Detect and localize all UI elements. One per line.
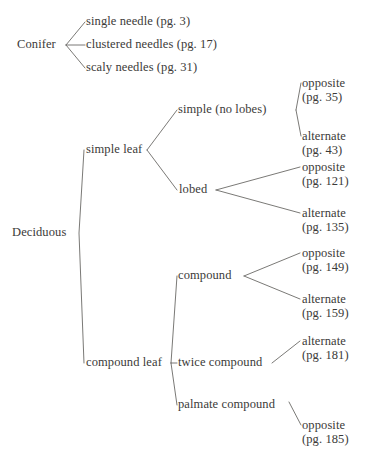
line-compound-leaf-to-palmate-compound (171, 363, 177, 405)
tree-identification-diagram: Conifer single needle (pg. 3) clustered … (0, 0, 367, 458)
node-simple-leaf[interactable]: simple leaf (86, 143, 142, 157)
leaf-simple-alternate-label: alternate (302, 129, 346, 143)
node-deciduous[interactable]: Deciduous (12, 226, 66, 240)
leaf-twice-alternate-page: (pg. 181) (302, 348, 349, 362)
line-conifer-to-scaly-needles (66, 45, 85, 68)
node-twice-compound[interactable]: twice compound (178, 356, 262, 370)
line-lobed-to-alternate (216, 190, 300, 213)
leaf-palmate-opposite[interactable]: opposite (pg. 185) (302, 418, 349, 446)
leaf-twice-alternate[interactable]: alternate (pg. 181) (302, 334, 349, 362)
leaf-compound-opposite-page: (pg. 149) (302, 260, 349, 274)
node-scaly-needles[interactable]: scaly needles (pg. 31) (86, 61, 197, 75)
leaf-simple-opposite[interactable]: opposite (pg. 35) (302, 76, 345, 104)
leaf-simple-opposite-page: (pg. 35) (302, 90, 345, 104)
node-single-needle[interactable]: single needle (pg. 3) (86, 15, 190, 29)
line-palmate-compound-to-opposite (289, 402, 301, 425)
line-lobed-to-opposite (216, 167, 300, 190)
leaf-simple-alternate[interactable]: alternate (pg. 43) (302, 129, 346, 157)
leaf-lobed-alternate-page: (pg. 135) (302, 220, 349, 234)
leaf-simple-opposite-label: opposite (302, 76, 345, 90)
leaf-lobed-opposite-label: opposite (302, 160, 345, 174)
leaf-lobed-alternate-label: alternate (302, 206, 346, 220)
node-palmate-compound[interactable]: palmate compound (178, 398, 275, 412)
leaf-simple-alternate-page: (pg. 43) (302, 143, 346, 157)
node-compound[interactable]: compound (178, 269, 232, 283)
leaf-compound-alternate[interactable]: alternate (pg. 159) (302, 292, 349, 320)
leaf-compound-alternate-page: (pg. 159) (302, 306, 349, 320)
node-conifer[interactable]: Conifer (17, 38, 56, 52)
line-conifer-to-single-needle (66, 22, 85, 45)
line-deciduous-trunk (79, 150, 84, 363)
line-compound-to-alternate (244, 276, 300, 299)
leaf-compound-alternate-label: alternate (302, 292, 346, 306)
leaf-lobed-opposite[interactable]: opposite (pg. 121) (302, 160, 349, 188)
leaf-lobed-alternate[interactable]: alternate (pg. 135) (302, 206, 349, 234)
line-simple-no-lobes-to-alternate (296, 110, 301, 136)
line-simple-leaf-to-lobed (147, 150, 177, 190)
line-compound-leaf-to-compound (171, 276, 177, 363)
line-simple-leaf-to-simple-no-lobes (147, 110, 177, 150)
line-twice-compound-to-alternate (272, 341, 300, 363)
leaf-palmate-opposite-label: opposite (302, 418, 345, 432)
leaf-lobed-opposite-page: (pg. 121) (302, 174, 349, 188)
line-simple-no-lobes-to-opposite (296, 83, 301, 110)
node-clustered-needles[interactable]: clustered needles (pg. 17) (86, 38, 217, 52)
line-compound-to-opposite (244, 253, 300, 276)
leaf-twice-alternate-label: alternate (302, 334, 346, 348)
leaf-compound-opposite-label: opposite (302, 246, 345, 260)
node-simple-no-lobes[interactable]: simple (no lobes) (178, 103, 267, 117)
node-compound-leaf[interactable]: compound leaf (86, 356, 162, 370)
leaf-compound-opposite[interactable]: opposite (pg. 149) (302, 246, 349, 274)
node-lobed[interactable]: lobed (179, 183, 207, 197)
leaf-palmate-opposite-page: (pg. 185) (302, 432, 349, 446)
